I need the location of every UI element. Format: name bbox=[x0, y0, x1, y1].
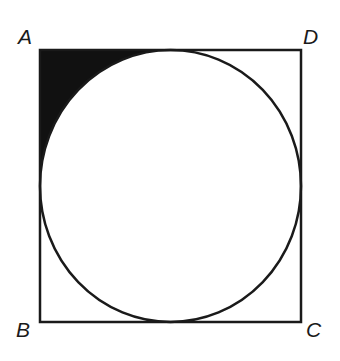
vertex-label-d: D bbox=[303, 25, 318, 48]
geometry-diagram: A D C B bbox=[0, 0, 340, 361]
vertex-label-c: C bbox=[306, 318, 322, 341]
shaded-corner-region bbox=[40, 50, 170, 186]
inscribed-circle bbox=[40, 50, 301, 322]
vertex-label-a: A bbox=[16, 25, 32, 48]
square-abcd bbox=[40, 50, 301, 322]
vertex-label-b: B bbox=[16, 318, 30, 341]
